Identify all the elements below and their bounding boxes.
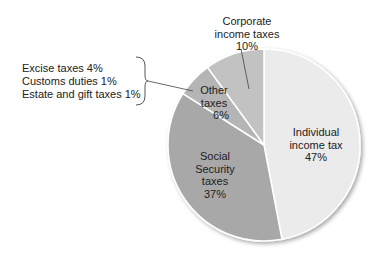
label-line: income taxes — [207, 28, 287, 41]
label-pct: 47% — [280, 151, 352, 164]
label-line: Corporate — [207, 15, 287, 28]
breakdown-item: Excise taxes 4% — [22, 62, 141, 75]
label-line: taxes — [192, 97, 236, 110]
label-pct: 10% — [207, 40, 287, 53]
label-other: Other taxes 6% — [192, 84, 236, 122]
breakdown-item: Estate and gift taxes 1% — [22, 88, 141, 101]
breakdown-item: Customs duties 1% — [22, 75, 141, 88]
label-line: Social — [188, 150, 242, 163]
label-line: taxes — [188, 175, 242, 188]
label-line: Security — [188, 163, 242, 176]
label-line: income tax — [280, 139, 352, 152]
label-line: Individual — [280, 126, 352, 139]
breakdown-list: Excise taxes 4% Customs duties 1% Estate… — [22, 62, 141, 101]
label-line: Other — [192, 84, 236, 97]
label-pct: 6% — [192, 109, 236, 122]
label-social: Social Security taxes 37% — [188, 150, 242, 200]
label-pct: 37% — [188, 188, 242, 201]
label-individual: Individual income tax 47% — [280, 126, 352, 164]
label-corporate: Corporate income taxes 10% — [207, 15, 287, 53]
other-leader-line — [148, 81, 193, 91]
